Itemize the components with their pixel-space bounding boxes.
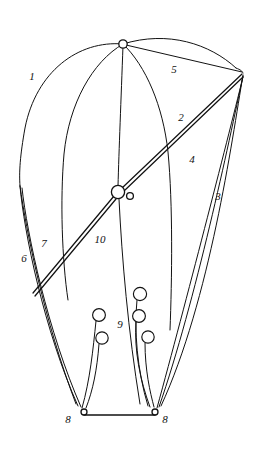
left-line-inner-7 <box>22 188 81 407</box>
ring-stem-left-upper <box>82 321 96 408</box>
ring-right-lower <box>142 331 154 343</box>
canopy-outer-top-edge <box>123 38 236 68</box>
spar-lower-left-lower-edge <box>35 199 116 296</box>
guide-rings-group <box>93 287 155 344</box>
canopy-group <box>20 38 243 404</box>
left-suspension-lines-group <box>20 186 81 407</box>
ring-left-upper <box>93 309 106 322</box>
callout-label-2: 2 <box>178 111 184 123</box>
callout-label-6: 6 <box>21 252 27 264</box>
callout-label-3: 3 <box>214 190 221 202</box>
callout-label-8-right: 8 <box>162 413 168 425</box>
spar-lower-edge <box>124 77 243 191</box>
callout-label-1: 1 <box>29 70 35 82</box>
technical-diagram: 1 2 3 4 5 6 7 8 8 9 10 <box>0 0 255 450</box>
callout-label-7: 7 <box>41 237 47 249</box>
callout-label-10: 10 <box>95 233 107 245</box>
canopy-outer-left-edge <box>20 44 123 186</box>
apex-to-hub-line <box>118 46 123 186</box>
canopy-apex-node <box>119 40 127 48</box>
center-hub-small-ring <box>127 193 134 200</box>
ring-left-lower <box>96 332 108 344</box>
canopy-inner-left-rib <box>62 44 123 300</box>
callout-label-9: 9 <box>117 318 123 330</box>
right-pulley-ring <box>152 409 158 415</box>
vertex-line-c-3 <box>157 77 243 408</box>
left-line-outer-6 <box>20 186 78 406</box>
figure-root: 1 2 3 4 5 6 7 8 8 9 10 <box>0 0 255 450</box>
callout-label-5: 5 <box>171 63 177 75</box>
ring-right-mid <box>133 310 146 323</box>
central-spar-group <box>33 74 243 296</box>
ring-right-top <box>133 287 146 300</box>
left-pulley-ring <box>81 409 87 415</box>
spar-upper-edge <box>122 74 242 188</box>
callout-label-4: 4 <box>189 153 195 165</box>
center-hub-ring <box>111 185 124 198</box>
callout-label-8-left: 8 <box>65 413 71 425</box>
right-vertex-fan-group <box>126 45 243 408</box>
canopy-inner-right-rib <box>123 44 172 330</box>
